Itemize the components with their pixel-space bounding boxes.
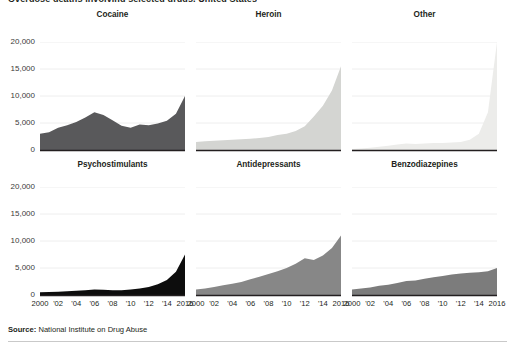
panel-title-other: Other: [352, 10, 497, 19]
panel-title-benzodiazepines: Benzodiazepines: [352, 160, 497, 169]
source-text: National Institute on Drug Abuse: [38, 325, 147, 334]
y-tick-label: 10,000: [0, 236, 35, 245]
plot-psychostimulants: [40, 187, 185, 295]
plot-heroin: [196, 42, 341, 150]
y-tick-label: 20,000: [0, 182, 35, 191]
footer-divider: [8, 341, 507, 342]
area-psychostimulants: [40, 255, 185, 296]
y-tick-label: 5,000: [0, 118, 35, 127]
y-tick-label: 0: [0, 290, 35, 299]
area-antidepressants: [196, 236, 341, 295]
y-tick-label: 0: [0, 145, 35, 154]
panel-title-antidepressants: Antidepressants: [196, 160, 341, 169]
source-label: Source:: [8, 325, 36, 334]
source-note: Source: National Institute on Drug Abuse: [8, 325, 147, 334]
plot-cocaine: [40, 42, 185, 150]
plot-benzodiazepines: [352, 187, 497, 295]
plot-other: [352, 42, 497, 150]
y-tick-label: 10,000: [0, 91, 35, 100]
plot-antidepressants: [196, 187, 341, 295]
panel-title-cocaine: Cocaine: [40, 10, 185, 19]
y-tick-label: 15,000: [0, 64, 35, 73]
y-tick-label: 15,000: [0, 209, 35, 218]
area-heroin: [196, 66, 341, 150]
area-benzodiazepines: [352, 268, 497, 295]
chart-title: Overdose deaths involving selected drugs…: [8, 0, 257, 2]
chart-figure: Overdose deaths involving selected drugs…: [0, 0, 515, 346]
y-tick-label: 5,000: [0, 263, 35, 272]
y-tick-label: 20,000: [0, 37, 35, 46]
x-tick-label: 2016: [485, 299, 509, 308]
panel-title-heroin: Heroin: [196, 10, 341, 19]
panel-title-psychostimulants: Psychostimulants: [40, 160, 185, 169]
